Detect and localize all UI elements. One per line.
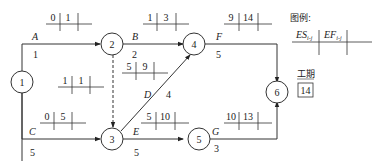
- F-ef: 14: [243, 12, 253, 23]
- activity-D-name: D: [143, 89, 152, 100]
- activity-B-name: B: [132, 31, 138, 42]
- duration-label: 工期: [297, 69, 315, 79]
- network-diagram: 1 2 3 4 5 6 A 1 B 2 C 5 D 4 E 5 F 5 G 3: [0, 0, 381, 163]
- activity-G-name: G: [212, 126, 219, 137]
- node-3-label: 3: [110, 134, 115, 145]
- activity-F-name: F: [215, 31, 223, 42]
- activity-A-duration: 1: [33, 49, 38, 60]
- C-ef: 5: [61, 111, 66, 122]
- activity-G-duration: 3: [214, 143, 219, 154]
- arrow-A: [22, 44, 100, 161]
- node-1-label: 1: [20, 77, 25, 88]
- dummy-ef: 1: [79, 75, 84, 86]
- C-es: 0: [45, 111, 50, 122]
- legend-title: 图例:: [290, 12, 311, 23]
- activity-B-duration: 2: [132, 49, 137, 60]
- activity-D-duration: 4: [166, 89, 171, 100]
- legend: 图例: ESi-j EFi-j: [290, 12, 372, 55]
- G-ef: 13: [243, 111, 253, 122]
- node-6-label: 6: [275, 87, 280, 98]
- activity-C-duration: 5: [30, 147, 35, 158]
- activity-C-name: C: [29, 126, 36, 137]
- A-ef: 1: [66, 12, 71, 23]
- activity-E-name: E: [132, 126, 139, 137]
- B-ef: 3: [164, 12, 169, 23]
- node-5-label: 5: [197, 134, 202, 145]
- node-4-label: 4: [192, 39, 197, 50]
- dummy-es: 1: [63, 75, 68, 86]
- activity-E-duration: 5: [134, 147, 139, 158]
- legend-es: ESi-j: [295, 29, 313, 41]
- A-es: 0: [51, 12, 56, 23]
- duration-value: 14: [301, 85, 311, 96]
- node-2-label: 2: [110, 39, 115, 50]
- activity-A-name: A: [31, 31, 39, 42]
- D-ef: 9: [143, 61, 148, 72]
- G-es: 10: [226, 111, 236, 122]
- F-es: 9: [229, 12, 234, 23]
- E-es: 5: [147, 111, 152, 122]
- B-es: 1: [148, 12, 153, 23]
- project-duration: 工期 14: [297, 69, 315, 97]
- legend-ef: EFi-j: [323, 29, 342, 41]
- activity-F-duration: 5: [216, 49, 221, 60]
- D-es: 5: [127, 61, 132, 72]
- E-ef: 10: [160, 111, 170, 122]
